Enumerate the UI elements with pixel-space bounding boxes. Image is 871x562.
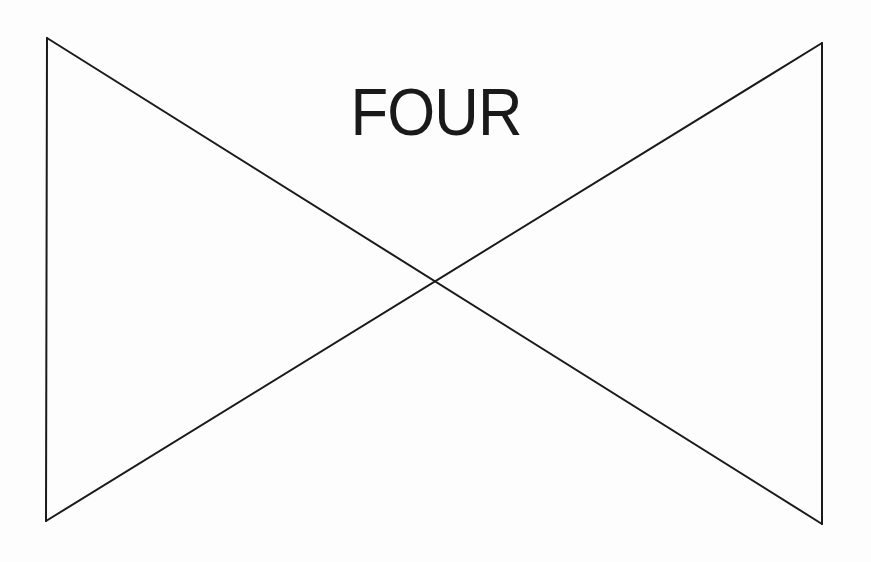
diagram-title: FOUR <box>344 72 528 152</box>
left-edge-line <box>46 38 47 521</box>
